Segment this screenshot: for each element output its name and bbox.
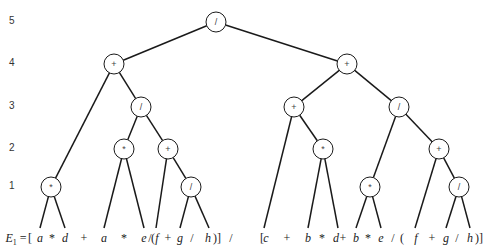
- expression-operand: e: [141, 231, 146, 246]
- level-label: 1: [9, 180, 15, 191]
- tree-edge: [56, 73, 110, 178]
- expression-name: E1 =: [5, 231, 26, 247]
- expression-operand: c: [263, 231, 268, 246]
- tree-edge: [104, 159, 122, 228]
- operator-node-L3c: /: [389, 97, 409, 117]
- expression-operand: b: [353, 231, 359, 246]
- node-operator-label: +: [111, 59, 116, 69]
- tree-edge: [119, 72, 135, 98]
- tree-edge: [40, 197, 48, 228]
- tree-edge: [126, 159, 144, 228]
- operator-node-L1d: /: [449, 177, 469, 197]
- node-operator-label: +: [344, 59, 349, 69]
- operator-node-L4b: +: [337, 54, 357, 74]
- level-label: 5: [9, 15, 15, 26]
- expression-tree: /++/+/*+*+*/*/: [0, 0, 489, 252]
- tree-edge: [415, 159, 436, 228]
- level-label: 2: [9, 142, 15, 153]
- tree-edge: [444, 158, 455, 178]
- expression-operator: )]: [475, 231, 483, 246]
- level-label: 3: [9, 100, 15, 111]
- expression-operand: d: [62, 231, 68, 246]
- expression-operand: g: [443, 231, 449, 246]
- operator-node-root: /: [206, 12, 226, 32]
- expression-operator: +: [165, 231, 172, 246]
- expression-operand: a: [101, 231, 107, 246]
- tree-edge: [173, 158, 186, 179]
- operator-node-L1b: /: [181, 177, 201, 197]
- tree-edge: [54, 196, 65, 228]
- expression-operator: *: [365, 231, 371, 246]
- node-operator-label: +: [165, 144, 170, 154]
- operator-node-L2d: +: [429, 139, 449, 159]
- node-operator-label: *: [49, 182, 53, 192]
- expression-operator: )]: [213, 231, 221, 246]
- node-operator-label: +: [436, 144, 441, 154]
- expression-operand: b: [305, 231, 311, 246]
- node-operator-label: *: [321, 144, 325, 154]
- expression-operand: d: [333, 231, 339, 246]
- operator-node-L2c: *: [313, 139, 333, 159]
- operator-node-L1c: *: [360, 177, 380, 197]
- tree-edge: [446, 197, 456, 228]
- tree-edge: [300, 115, 318, 141]
- tree-edge: [355, 70, 392, 100]
- tree-edge: [264, 117, 292, 228]
- level-label: 4: [9, 57, 15, 68]
- operator-node-L2a: *: [114, 139, 134, 159]
- expression-operator: /: [455, 231, 458, 246]
- tree-edge: [156, 159, 166, 228]
- expression-operator: +: [429, 231, 436, 246]
- operator-node-L3b: +: [284, 97, 304, 117]
- tree-edge: [462, 197, 470, 228]
- tree-edge: [373, 116, 395, 177]
- expression-operator: *: [121, 231, 127, 246]
- tree-edge: [325, 159, 338, 228]
- expression-operator: /: [229, 231, 232, 246]
- expression-operand: h: [205, 231, 211, 246]
- expression-operator: /: [190, 231, 193, 246]
- expression-operand: a: [37, 231, 43, 246]
- tree-edge: [180, 197, 188, 228]
- expression-operator: *: [319, 231, 325, 246]
- expression-operator: *: [49, 231, 55, 246]
- node-operator-label: +: [291, 102, 296, 112]
- tree-edges: [40, 25, 470, 228]
- expression-operator: +: [284, 231, 291, 246]
- tree-edge: [195, 196, 209, 228]
- tree-edge: [373, 197, 381, 228]
- expression-operator: (: [400, 231, 404, 246]
- tree-edge: [146, 115, 162, 140]
- tree-edge: [123, 26, 207, 60]
- operator-node-L3a: /: [131, 97, 151, 117]
- expression-operand: e: [378, 231, 383, 246]
- expression-operator: [: [28, 231, 32, 246]
- expression-operator: /: [391, 231, 394, 246]
- operator-node-L1a: *: [41, 177, 61, 197]
- expression-operand: f: [414, 231, 417, 246]
- tree-edge: [226, 25, 338, 61]
- operator-node-L4a: +: [104, 54, 124, 74]
- node-operator-label: *: [368, 182, 372, 192]
- expression-operator: +: [340, 231, 347, 246]
- expression-operand: f: [155, 231, 158, 246]
- tree-edge: [128, 116, 137, 139]
- expression-operator: +: [81, 231, 88, 246]
- tree-edge: [308, 159, 321, 228]
- tree-nodes: /++/+/*+*+*/*/: [41, 12, 469, 197]
- expression-operand: g: [177, 231, 183, 246]
- tree-edge: [356, 196, 367, 228]
- expression-operand: h: [467, 231, 473, 246]
- node-operator-label: *: [122, 144, 126, 154]
- operator-node-L2b: +: [158, 139, 178, 159]
- tree-edge: [302, 70, 339, 100]
- tree-edge: [406, 114, 432, 142]
